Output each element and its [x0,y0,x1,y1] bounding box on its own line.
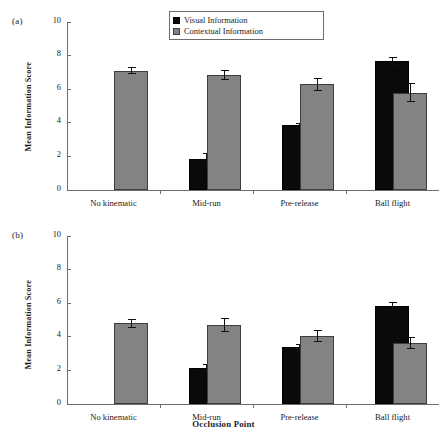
error-bar [392,57,393,65]
y-tick-mark [67,22,71,23]
x-axis-tick [253,404,254,408]
bar [114,323,148,404]
y-axis-line [67,236,68,404]
error-bar-cap [128,73,136,74]
x-axis-category-label: Mid-run [160,198,253,208]
y-tick-label: 10 [53,16,61,25]
error-bar-cap [389,309,397,310]
error-bar [131,67,132,74]
y-tick-label: 0 [57,398,61,407]
y-tick-mark [67,236,71,237]
panel-a-label: (a) [12,16,23,26]
legend-swatch-gray [173,28,180,35]
error-bar [131,319,132,328]
y-tick-label: 0 [57,184,61,193]
x-axis-tick [253,190,254,194]
bar [300,84,334,190]
y-tick-mark [67,156,71,157]
error-bar [410,337,411,349]
y-axis-line [67,22,68,190]
y-tick-mark [67,303,71,304]
error-bar [224,318,225,331]
error-bar [392,302,393,310]
error-bar-cap [128,319,136,320]
y-tick-label: 6 [57,297,61,306]
legend-swatch-black [173,17,180,24]
panel-b-y-axis-title: Mean Information Score [24,280,33,370]
bar [393,93,427,190]
y-tick-mark [67,404,71,405]
panel-b: (b) Mean Information Score 0246810No kin… [0,214,447,445]
panel-b-label: (b) [12,230,23,240]
x-axis-category-label: No kinematic [67,198,160,208]
error-bar-cap [389,302,397,303]
x-axis-category-label: Pre-release [253,198,346,208]
error-bar-cap [407,83,415,84]
y-tick-mark [67,89,71,90]
error-bar [317,330,318,342]
error-bar [317,78,318,91]
bar [207,325,241,404]
legend-entry: Visual Information [173,15,318,25]
error-bar-cap [314,341,322,342]
bar [300,336,334,404]
error-bar-cap [221,70,229,71]
error-bar-cap [128,67,136,68]
y-tick-mark [67,190,71,191]
error-bar-cap [389,57,397,58]
error-bar-cap [221,79,229,80]
x-axis-tick [160,404,161,408]
error-bar-cap [407,337,415,338]
error-bar-cap [407,101,415,102]
figure-bar-charts: (a) Mean Information Score 0246810No kin… [0,0,447,445]
bar [207,75,241,190]
x-axis-category-label: Ball flight [346,198,439,208]
panel-b-plot-area: 0246810No kinematicMid-runPre-releaseBal… [67,236,439,404]
legend-entry-label: Contextual Information [184,27,263,36]
y-tick-mark [67,122,71,123]
error-bar-cap [128,327,136,328]
y-tick-label: 4 [57,116,61,125]
legend-entry: Contextual Information [173,26,318,36]
y-tick-label: 8 [57,49,61,58]
error-bar [224,70,225,79]
y-tick-label: 4 [57,330,61,339]
error-bar-cap [389,65,397,66]
error-bar [410,83,411,101]
error-bar-cap [407,348,415,349]
error-bar-cap [314,330,322,331]
error-bar-cap [221,331,229,332]
error-bar-cap [314,78,322,79]
y-tick-label: 8 [57,263,61,272]
x-axis-title: Occlusion Point [0,419,447,429]
panel-a-y-axis-title: Mean Information Score [24,62,33,152]
error-bar-cap [221,318,229,319]
y-tick-label: 10 [53,230,61,239]
y-tick-mark [67,269,71,270]
panel-a-plot-area: 0246810No kinematicMid-runPre-releaseBal… [67,22,439,190]
error-bar-cap [314,90,322,91]
chart-legend: Visual InformationContextual Information [169,11,324,40]
y-tick-label: 2 [57,364,61,373]
legend-entry-label: Visual Information [184,16,247,25]
y-tick-mark [67,55,71,56]
x-axis-tick [160,190,161,194]
y-tick-label: 2 [57,150,61,159]
bar [393,343,427,404]
x-axis-tick [346,190,347,194]
bar [114,71,148,190]
y-tick-mark [67,370,71,371]
y-tick-mark [67,336,71,337]
y-tick-label: 6 [57,83,61,92]
x-axis-tick [346,404,347,408]
